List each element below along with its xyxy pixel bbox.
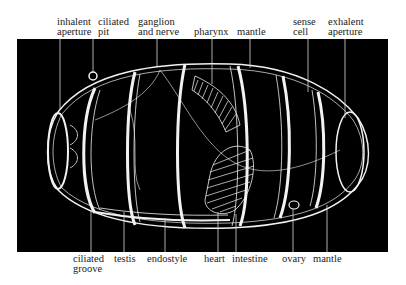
label-intestine: intestine bbox=[232, 254, 268, 264]
label-ovary: ovary bbox=[282, 254, 306, 264]
label-mantle-top: mantle bbox=[237, 27, 266, 37]
label-ganglion-and-nerve: ganglionand nerve bbox=[138, 17, 179, 37]
label-sense-cell: sensecell bbox=[293, 17, 316, 37]
label-pharynx: pharynx bbox=[194, 27, 228, 37]
label-testis: testis bbox=[114, 254, 136, 264]
label-inhalent-aperture: inhalentaperture bbox=[57, 17, 91, 37]
label-ciliated-pit: ciliatedpit bbox=[98, 17, 129, 37]
label-heart: heart bbox=[204, 254, 225, 264]
label-mantle-bottom: mantle bbox=[313, 254, 342, 264]
doliolid-illustration bbox=[0, 0, 406, 285]
label-endostyle: endostyle bbox=[147, 254, 187, 264]
label-ciliated-groove: ciliatedgroove bbox=[73, 254, 104, 274]
label-exhalent-aperture: exhalentaperture bbox=[328, 17, 364, 37]
